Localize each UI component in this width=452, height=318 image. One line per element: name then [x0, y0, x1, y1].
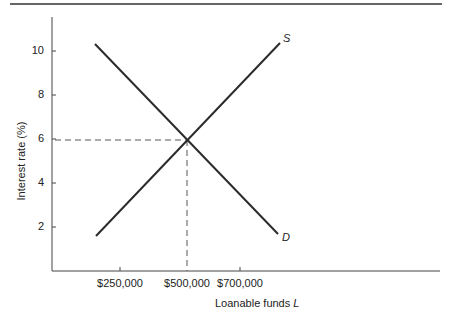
- supply-label: S: [283, 32, 290, 44]
- y-tick-label: 6: [24, 132, 44, 144]
- x-axis-label: Loanable funds L: [215, 297, 299, 309]
- y-tick-label: 4: [24, 176, 44, 188]
- x-tick-label: $250,000: [97, 277, 143, 289]
- y-tick-label: 8: [24, 88, 44, 100]
- y-tick-label: 10: [24, 44, 44, 56]
- demand-label: D: [282, 231, 290, 243]
- y-ticks: [52, 51, 56, 227]
- x-axis-label-text: Loanable funds: [215, 297, 293, 309]
- x-tick-label: $700,000: [217, 277, 263, 289]
- x-tick-label: $500,000: [164, 277, 210, 289]
- x-ticks: [120, 267, 240, 271]
- y-axis-label: Interest rate (%): [15, 106, 27, 216]
- x-axis-label-var: L: [293, 297, 299, 309]
- y-tick-label: 2: [24, 220, 44, 232]
- chart-canvas: [0, 0, 452, 318]
